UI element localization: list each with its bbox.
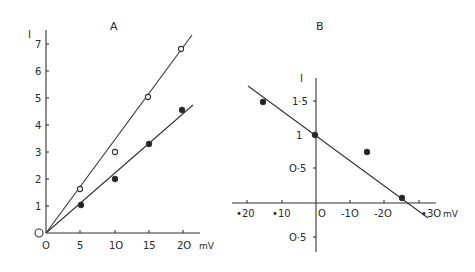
svg-text:1: 1 xyxy=(35,201,41,212)
svg-text:-1O: -1O xyxy=(341,208,359,219)
svg-text:7: 7 xyxy=(35,39,41,50)
chart-a-fit-line-filled xyxy=(46,105,193,233)
svg-text:15: 15 xyxy=(143,240,156,251)
svg-text:1·5: 1·5 xyxy=(292,96,308,107)
svg-text:•10: •10 xyxy=(272,208,291,219)
chart-a-x-unit: mV xyxy=(199,241,215,251)
chart-b xyxy=(232,78,436,252)
svg-text:5: 5 xyxy=(35,93,41,104)
svg-text:1O: 1O xyxy=(109,240,123,251)
chart-a xyxy=(35,30,200,237)
chart-a-y-label: I xyxy=(28,29,31,40)
svg-text:O: O xyxy=(42,240,50,251)
chart-b-x-unit: mV xyxy=(443,209,459,219)
svg-text:-2O: -2O xyxy=(374,208,392,219)
chart-a-fit-line-open xyxy=(46,35,192,233)
svg-text:O·5: O·5 xyxy=(289,163,306,174)
figure-canvas: A I 1 2 3 4 5 6 7 O 5 1O 15 2O mV xyxy=(0,0,475,272)
svg-text:5: 5 xyxy=(77,240,83,251)
chart-b-y-label: I xyxy=(300,73,303,84)
svg-text:2O: 2O xyxy=(177,240,191,251)
svg-text:•3O: •3O xyxy=(421,208,441,219)
chart-a-labels: A I 1 2 3 4 5 6 7 O 5 1O 15 2O mV xyxy=(28,20,215,251)
chart-a-series-filled xyxy=(78,107,184,207)
chart-a-origin-marker xyxy=(35,229,43,237)
chart-b-labels: B I 1·5 1 O·5 O·5 •20 •10 O -1O -2O •3O … xyxy=(236,20,459,243)
svg-text:1: 1 xyxy=(296,130,302,141)
chart-a-title: A xyxy=(110,20,118,33)
svg-text:3: 3 xyxy=(35,147,41,158)
svg-text:2: 2 xyxy=(35,174,41,185)
svg-text:O·5: O·5 xyxy=(289,232,306,243)
svg-text:•20: •20 xyxy=(236,208,255,219)
svg-text:4: 4 xyxy=(35,120,41,131)
svg-text:O: O xyxy=(318,208,326,219)
chart-b-title: B xyxy=(316,20,324,33)
svg-text:6: 6 xyxy=(35,66,41,77)
